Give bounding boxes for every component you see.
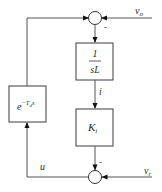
arrow-down-icon [93, 37, 98, 43]
u-label: u [40, 161, 45, 172]
arrow-down-icon [93, 165, 98, 171]
arrow-up-icon [25, 122, 30, 128]
arrow-down-icon [93, 103, 98, 109]
current-label: i [99, 86, 102, 97]
arrow-left-icon [102, 175, 108, 180]
inductor-numerator: 1 [93, 48, 98, 59]
inductor-denominator: sL [90, 64, 100, 75]
vo-label: vo [135, 5, 143, 18]
block-diagram: vo - 1 sL i Ki - vr u e−Tds [0, 0, 162, 192]
top-summing-junction [89, 12, 102, 25]
bottom-junction-sign: - [99, 157, 102, 167]
vr-label: vr [144, 165, 151, 178]
bottom-summing-junction [89, 171, 102, 184]
top-junction-sign: - [104, 22, 107, 32]
